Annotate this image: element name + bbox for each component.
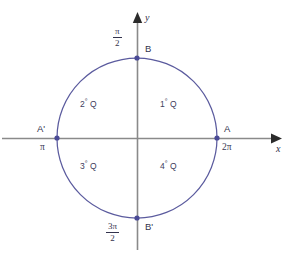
angle-label-pi: π [40, 143, 45, 153]
quadrant-3-ordinal: º [85, 160, 87, 166]
angle-label-pi-over-2: π 2 [113, 27, 122, 49]
three-pi-over-2-numerator: 3π [106, 222, 119, 231]
quadrant-4-ordinal: º [165, 160, 167, 166]
angle-label-3pi-over-2: 3π 2 [106, 222, 119, 244]
point-marker-a-prime [54, 135, 59, 140]
three-pi-over-2-denominator: 2 [106, 234, 119, 243]
point-marker-b-prime [134, 215, 139, 220]
point-marker-a [214, 135, 219, 140]
x-axis-arrowhead [271, 134, 282, 144]
quadrant-3-suffix: Q [90, 161, 97, 171]
quadrant-4-suffix: Q [170, 161, 177, 171]
y-axis-arrowhead [133, 12, 142, 23]
quadrant-label-1: 1º Q [160, 100, 177, 109]
pi-over-2-denominator: 2 [113, 39, 122, 48]
quadrant-1-ordinal: º [165, 98, 167, 104]
point-label-b: B [145, 44, 151, 54]
figure-canvas: x y B A A' B' π 2 3π 2 π 2π 1º Q 2º Q 3º… [0, 0, 295, 262]
quadrant-label-2: 2º Q [80, 100, 97, 109]
pi-over-2-numerator: π [113, 27, 122, 36]
point-label-b-prime: B' [145, 222, 153, 232]
angle-label-2pi: 2π [222, 143, 232, 153]
y-axis-label: y [145, 13, 149, 23]
point-label-a: A [224, 124, 230, 134]
quadrant-1-suffix: Q [170, 99, 177, 109]
quadrant-label-4: 4º Q [160, 162, 177, 171]
point-label-a-prime: A' [37, 124, 45, 134]
quadrant-2-ordinal: º [85, 98, 87, 104]
quadrant-label-3: 3º Q [80, 162, 97, 171]
quadrant-2-suffix: Q [90, 99, 97, 109]
point-marker-b [134, 55, 139, 60]
x-axis-label: x [276, 144, 280, 154]
